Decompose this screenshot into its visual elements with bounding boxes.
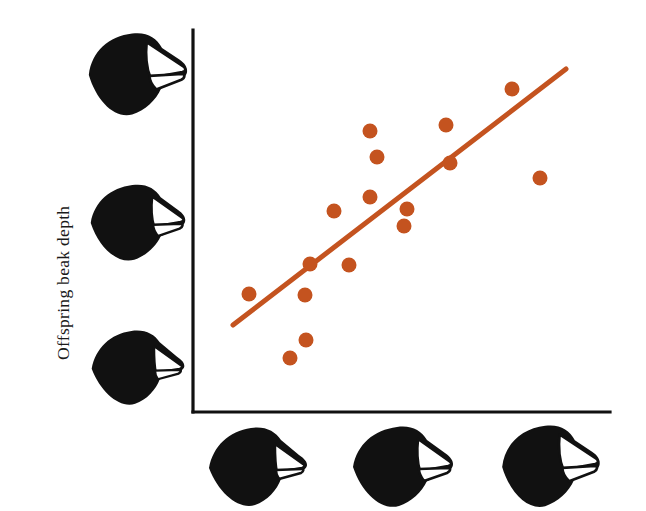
scatter-points-group (242, 82, 548, 366)
scatter-point (363, 124, 378, 139)
finch-head-small-beak-icon (209, 428, 307, 506)
scatter-point (327, 204, 342, 219)
scatter-point (397, 219, 412, 234)
scatter-point (299, 333, 314, 348)
finch-head-large-beak-icon (502, 425, 600, 506)
scatter-point (363, 190, 378, 205)
finch-head-medium-beak-icon (91, 185, 186, 261)
beak-depth-heritability-figure: Offspring beak depth (0, 0, 646, 511)
scatter-point (370, 150, 385, 165)
scatter-point (303, 257, 318, 272)
scatter-point (298, 288, 313, 303)
scatter-point (439, 118, 454, 133)
finch-head-medium-beak-icon (353, 427, 453, 507)
scatter-point (505, 82, 520, 97)
scatter-point (242, 287, 257, 302)
y-axis-icon-group (89, 33, 187, 405)
scatter-point (533, 171, 548, 186)
x-axis-icon-group (209, 425, 600, 506)
plot-area (0, 0, 646, 511)
scatter-point (342, 258, 357, 273)
regression-line (233, 69, 566, 325)
finch-head-large-beak-icon (89, 33, 187, 115)
scatter-point (283, 351, 298, 366)
finch-head-small-beak-icon (92, 331, 185, 405)
regression-line-group (233, 69, 566, 325)
scatter-point (443, 156, 458, 171)
scatter-point (400, 202, 415, 217)
